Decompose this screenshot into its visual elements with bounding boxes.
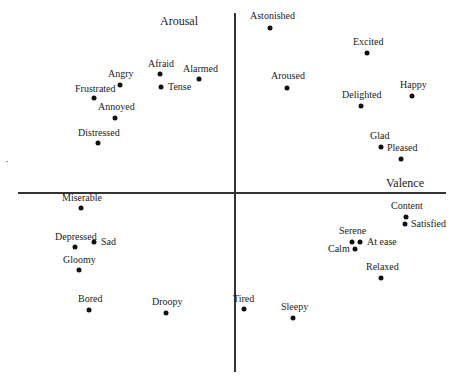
point-excited [365,51,370,56]
stray-mark [6,161,8,162]
point-at-ease [358,240,363,245]
point-label-astonished: Astonished [250,11,295,21]
point-satisfied [403,222,408,227]
point-angry [118,83,123,88]
point-label-depressed: Depressed [55,232,97,242]
point-content [404,215,409,220]
point-label-miserable: Miserable [62,193,102,203]
point-serene [350,240,355,245]
point-tense [159,85,164,90]
point-label-tired: Tired [233,294,254,304]
point-sad [92,240,97,245]
point-sleepy [291,316,296,321]
point-aroused [285,86,290,91]
point-calm [353,247,358,252]
arousal-axis-label: Arousal [160,14,198,29]
point-label-at-ease: At ease [367,237,397,247]
point-droopy [164,311,169,316]
circumplex-chart: Valence Arousal AstonishedExcitedAroused… [0,0,461,387]
point-astonished [268,26,273,31]
point-label-calm: Calm [328,244,350,254]
point-relaxed [379,276,384,281]
point-annoyed [113,116,118,121]
point-label-tense: Tense [168,82,191,92]
point-label-bored: Bored [78,294,102,304]
point-label-content: Content [391,201,423,211]
point-label-relaxed: Relaxed [366,262,399,272]
point-label-glad: Glad [370,131,389,141]
point-label-droopy: Droopy [152,297,183,307]
point-tired [242,307,247,312]
point-miserable [79,206,84,211]
point-depressed [73,245,78,250]
point-glad [379,145,384,150]
point-gloomy [77,268,82,273]
point-label-delighted: Delighted [342,90,381,100]
point-label-distressed: Distressed [78,128,120,138]
point-label-serene: Serene [339,226,366,236]
point-label-sad: Sad [101,237,116,247]
arousal-axis [234,13,236,372]
point-bored [87,308,92,313]
point-label-satisfied: Satisfied [411,219,446,229]
point-label-gloomy: Gloomy [63,255,96,265]
point-label-pleased: Pleased [387,143,418,153]
point-alarmed [197,77,202,82]
point-label-angry: Angry [108,69,134,79]
point-distressed [96,141,101,146]
point-label-excited: Excited [353,37,384,47]
point-label-happy: Happy [400,80,427,90]
point-label-alarmed: Alarmed [183,64,218,74]
point-label-annoyed: Annoyed [98,102,135,112]
point-delighted [359,104,364,109]
point-pleased [399,157,404,162]
point-label-sleepy: Sleepy [281,302,308,312]
valence-axis-label: Valence [386,176,424,191]
point-label-afraid: Afraid [148,59,174,69]
point-label-frustrated: Frustrated [75,84,116,94]
point-afraid [158,72,163,77]
point-label-aroused: Aroused [271,71,305,81]
point-happy [410,94,415,99]
point-frustrated [92,96,97,101]
